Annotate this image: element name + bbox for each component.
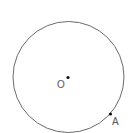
diagram-canvas: O A xyxy=(0,0,135,133)
label-a: A xyxy=(112,116,119,127)
center-point-o xyxy=(66,76,69,79)
label-o: O xyxy=(57,79,65,90)
